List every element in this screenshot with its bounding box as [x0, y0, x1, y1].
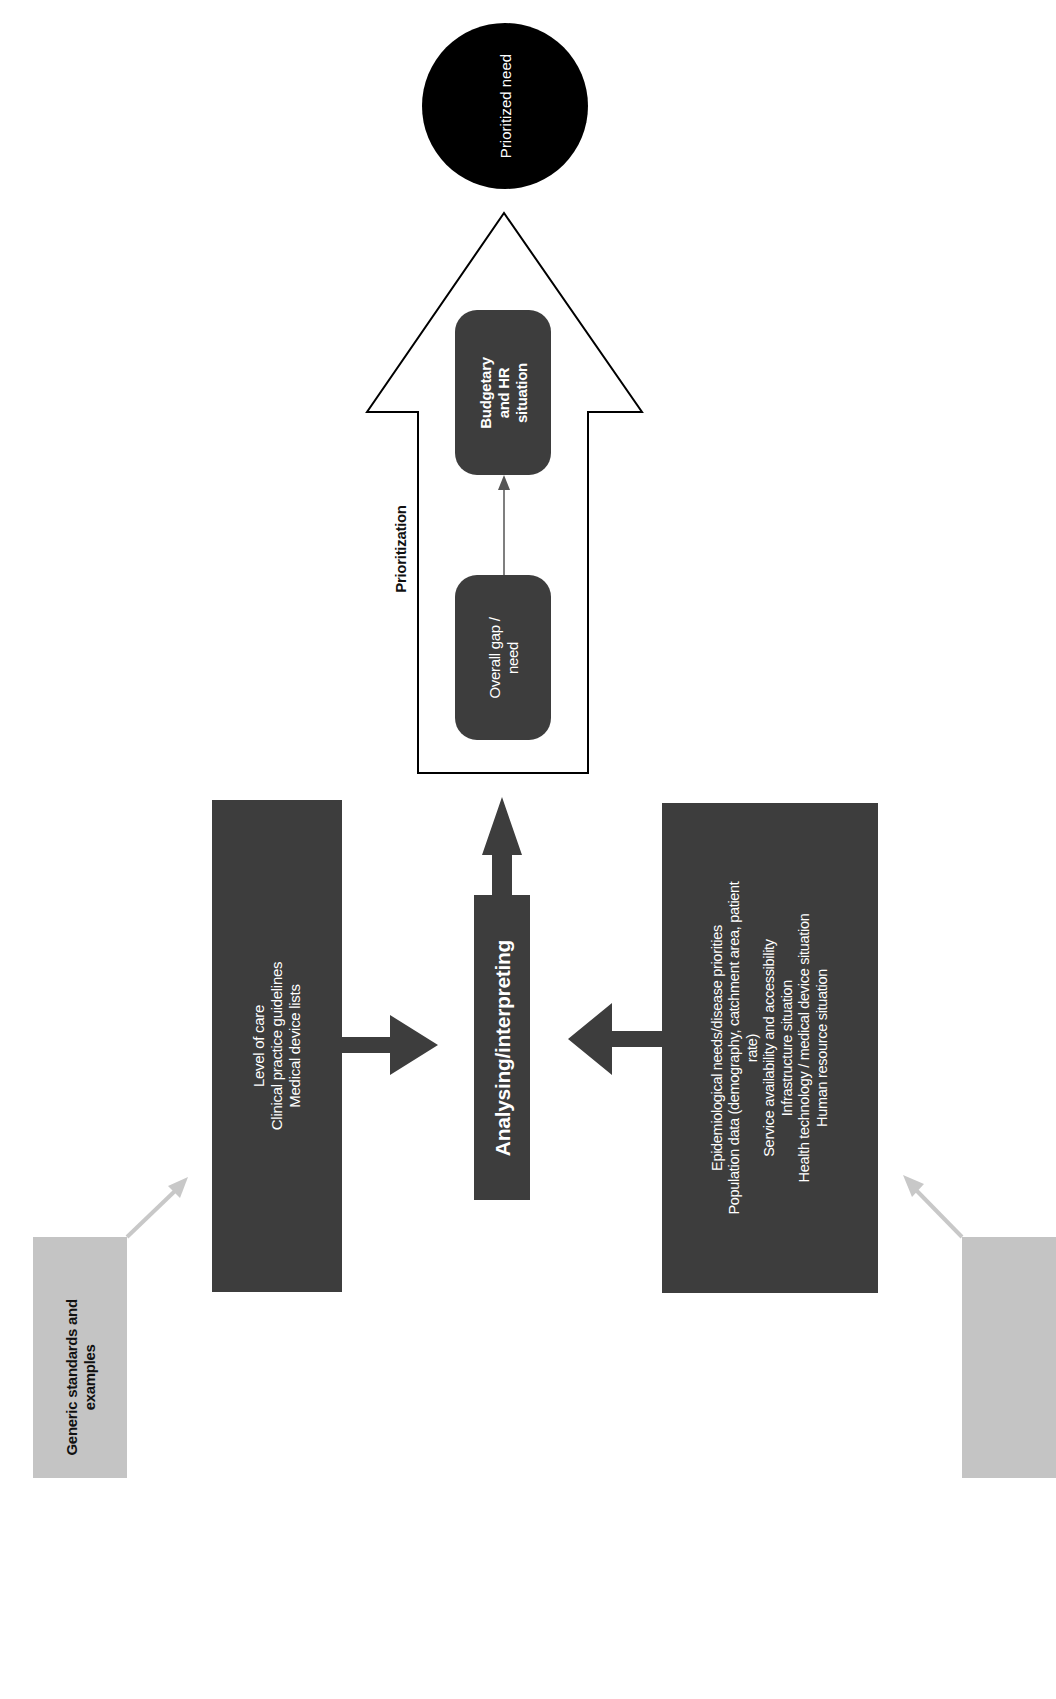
generic-standards-box: Generic standards and examples: [33, 1237, 127, 1478]
overall-gap-need-box: Overall gap / need: [455, 575, 551, 740]
generic-standards-label: Generic standards and examples: [34, 1237, 128, 1478]
standards-box-text: Level of care Clinical practice guidelin…: [212, 800, 342, 1292]
standards-to-analysis-arrow: [342, 1015, 438, 1075]
local-situation-label-box: [962, 1237, 1056, 1478]
budgetary-hr-box: Budgetary and HR situation: [455, 310, 551, 475]
prioritized-need-label: Prioritized need: [492, 36, 518, 176]
analysing-interpreting-label: Analysing/interpreting: [474, 895, 530, 1200]
situation-box: Epidemiological needs/disease priorities…: [662, 803, 878, 1293]
generic-pointer-line: [127, 1190, 176, 1237]
diagram-connectors: [0, 0, 1056, 1699]
analysis-up-arrow: [482, 797, 522, 897]
local-pointer-line: [916, 1190, 962, 1237]
prioritization-label: Prioritization: [387, 494, 413, 604]
standards-box: Level of care Clinical practice guidelin…: [212, 800, 342, 1292]
overall-gap-need-label: Overall gap / need: [455, 575, 551, 740]
analysing-interpreting-bar: Analysing/interpreting: [474, 895, 530, 1200]
situation-to-analysis-arrow: [568, 1003, 662, 1075]
budgetary-hr-label: Budgetary and HR situation: [455, 310, 551, 475]
situation-box-text: Epidemiological needs/disease priorities…: [662, 803, 878, 1293]
